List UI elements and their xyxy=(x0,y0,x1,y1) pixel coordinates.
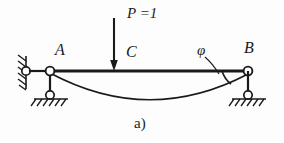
label-node-b: B xyxy=(244,40,254,56)
figure-caption: a) xyxy=(134,116,146,131)
angle-arc-phi xyxy=(222,71,231,84)
load-arrow-head xyxy=(110,60,118,71)
ground-hatch-a xyxy=(31,99,66,106)
support-ground-b xyxy=(229,91,266,106)
label-node-c: C xyxy=(126,44,137,60)
pin-node-a-ground xyxy=(46,91,54,99)
pin-node-b-ground xyxy=(244,91,252,99)
wall-pin-node xyxy=(22,67,30,75)
support-ground-a xyxy=(31,91,68,106)
label-angle-phi: φ xyxy=(197,43,205,58)
left-wall-support xyxy=(18,55,30,90)
node-a xyxy=(46,67,55,76)
cable-member xyxy=(50,73,248,100)
load-arrow-p xyxy=(110,18,118,71)
ground-hatch-b xyxy=(229,99,264,106)
label-node-a: A xyxy=(55,42,65,58)
label-load-p: P =1 xyxy=(127,6,157,21)
structural-diagram-figure: A B C P =1 φ a) xyxy=(0,0,284,143)
